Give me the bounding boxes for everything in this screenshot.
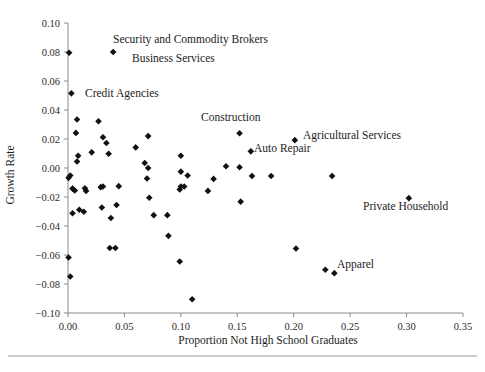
y-tick-label: −0.08 <box>36 279 60 290</box>
scatter-plot-figure: −0.10−0.08−0.06−0.04−0.020.000.020.040.0… <box>0 0 485 372</box>
y-tick-label: 0.02 <box>42 134 60 145</box>
y-tick-label: −0.04 <box>36 221 61 232</box>
y-tick-label: −0.10 <box>36 308 60 319</box>
point-label: Security and Commodity Brokers <box>113 33 268 46</box>
x-tick-label: 0.35 <box>454 321 472 332</box>
plot-canvas: −0.10−0.08−0.06−0.04−0.020.000.020.040.0… <box>0 0 485 372</box>
x-tick-label: 0.10 <box>172 321 190 332</box>
x-tick-label: 0.00 <box>59 321 77 332</box>
y-tick-label: 0.04 <box>42 105 61 116</box>
point-label: Private Household <box>363 200 449 212</box>
x-tick-label: 0.25 <box>341 321 359 332</box>
y-tick-label: −0.06 <box>36 250 60 261</box>
y-axis-title: Growth Rate <box>4 145 16 204</box>
x-tick-label: 0.30 <box>397 321 415 332</box>
x-tick-label: 0.15 <box>228 321 246 332</box>
point-label: Construction <box>201 111 261 123</box>
point-label: Auto Repair <box>254 142 311 155</box>
point-label: Apparel <box>337 258 374 271</box>
y-tick-label: 0.08 <box>42 47 60 58</box>
x-tick-label: 0.05 <box>115 321 133 332</box>
point-label: Agricultural Services <box>303 129 402 142</box>
point-label: Business Services <box>132 52 215 64</box>
y-tick-label: 0.00 <box>42 163 60 174</box>
y-tick-label: 0.06 <box>42 76 60 87</box>
y-tick-label: −0.02 <box>36 192 60 203</box>
x-axis-title: Proportion Not High School Graduates <box>178 334 358 347</box>
x-tick-label: 0.20 <box>285 321 303 332</box>
y-tick-label: 0.10 <box>42 18 60 29</box>
point-label: Credit Agencies <box>85 87 159 100</box>
